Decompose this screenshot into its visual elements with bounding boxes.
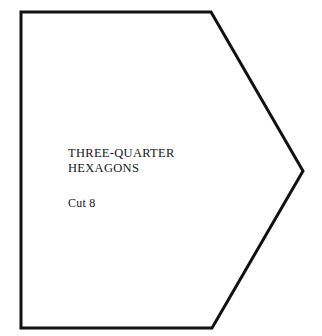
pattern-title: THREE-QUARTER HEXAGONS — [68, 146, 248, 175]
pattern-label-block: THREE-QUARTER HEXAGONS — [68, 146, 248, 175]
pattern-sheet: THREE-QUARTER HEXAGONS Cut 8 — [0, 0, 322, 336]
cut-instruction-label: Cut 8 — [68, 196, 95, 210]
